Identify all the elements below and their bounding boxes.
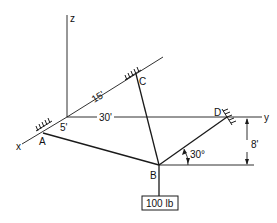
diagram-svg: z y x A B C D 5' 15' 30' 30' 8' 30° 100 … xyxy=(0,0,277,223)
statics-diagram: z y x A B C D 5' 15' 30' 30' 8' 30° 100 … xyxy=(0,0,277,223)
z-axis-label: z xyxy=(70,13,75,24)
c-wall-line xyxy=(67,57,163,117)
point-C-label: C xyxy=(139,76,146,87)
point-D-label: D xyxy=(214,107,221,118)
dim-15ft-label: 15' xyxy=(89,89,106,105)
point-A-label: A xyxy=(39,136,46,147)
x-axis-label: x xyxy=(16,141,21,152)
angle-30-arc xyxy=(182,149,190,165)
cable-AB xyxy=(43,133,159,165)
y-axis-label: y xyxy=(264,112,269,123)
point-B-label: B xyxy=(150,170,157,181)
angle-30-label: 30° xyxy=(190,149,205,160)
dim-5ft-label: 5' xyxy=(60,122,68,133)
dim-30ft-label-top: 30' xyxy=(99,112,112,123)
load-label: 100 lb xyxy=(146,198,174,209)
support-A-hatch xyxy=(36,118,52,131)
cable-CB xyxy=(136,74,159,165)
dimension-8ft xyxy=(245,118,249,165)
dim-8ft-label: 8' xyxy=(251,139,259,150)
